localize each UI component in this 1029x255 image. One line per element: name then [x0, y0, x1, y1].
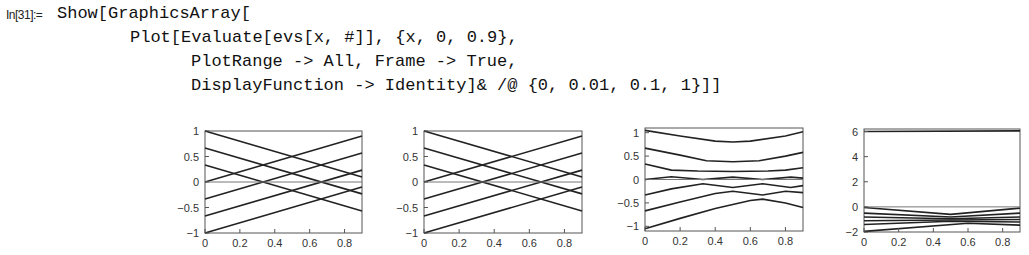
y-tick-label: 1 — [633, 127, 639, 139]
eigenvalue-curve — [205, 153, 362, 199]
plot-1: 00.20.40.60.810.50−0.5−1 — [205, 131, 362, 233]
code-line-4[interactable]: DisplayFunction -> Identity]& /@ {0, 0.0… — [191, 76, 722, 95]
x-tick-label: 0.4 — [487, 237, 502, 249]
y-tick-label: −1 — [405, 227, 418, 239]
x-tick-label: 0.8 — [557, 237, 572, 249]
eigenvalue-curve — [424, 165, 582, 211]
input-cell-label: In[31]:= — [6, 8, 42, 22]
y-tick-label: 2 — [852, 176, 858, 188]
y-tick-label: 4 — [852, 151, 858, 163]
x-tick-label: 0.6 — [302, 237, 317, 249]
y-tick-label: 0 — [852, 201, 858, 213]
eigenvalue-curve — [424, 153, 582, 199]
y-tick-label: −1 — [626, 220, 639, 232]
eigenvalue-curve — [864, 131, 1020, 132]
eigenvalue-curve — [864, 219, 1020, 220]
eigenvalue-curve — [864, 223, 1020, 231]
y-tick-label: −0.5 — [177, 202, 199, 214]
y-tick-label: −0.5 — [617, 197, 639, 209]
plot-2: 00.20.40.60.810.50−0.5−1 — [424, 131, 582, 233]
eigenvalue-curve — [205, 165, 362, 211]
x-tick-label: 0.4 — [267, 237, 282, 249]
y-tick-label: 0.5 — [403, 151, 418, 163]
x-tick-label: 0.8 — [995, 236, 1010, 248]
eigenvalue-curve — [205, 131, 362, 177]
y-tick-label: 0 — [412, 176, 418, 188]
y-tick-label: 1 — [193, 125, 199, 137]
y-tick-label: −1 — [186, 227, 199, 239]
code-line-1[interactable]: Show[GraphicsArray[ — [57, 4, 251, 23]
x-tick-label: 0 — [861, 236, 867, 248]
x-tick-label: 0.6 — [743, 235, 758, 247]
plot-4: 00.20.40.60.86420−2 — [864, 129, 1020, 232]
x-tick-label: 0.6 — [960, 236, 975, 248]
x-tick-label: 0 — [642, 235, 648, 247]
x-tick-label: 0 — [202, 237, 208, 249]
x-tick-label: 0 — [421, 237, 427, 249]
eigenvalue-curve — [205, 136, 362, 182]
x-tick-label: 0.2 — [891, 236, 906, 248]
x-tick-label: 0.6 — [522, 237, 537, 249]
eigenvalue-curve — [645, 191, 803, 211]
eigenvalue-curve — [205, 148, 362, 194]
y-tick-label: 0.5 — [184, 151, 199, 163]
x-tick-label: 0.4 — [708, 235, 723, 247]
x-tick-label: 0.2 — [672, 235, 687, 247]
eigenvalue-curve — [645, 184, 803, 195]
y-tick-label: 0.5 — [624, 150, 639, 162]
eigenvalue-curve — [424, 170, 582, 216]
eigenvalue-curve — [205, 187, 362, 233]
y-tick-label: 0 — [633, 174, 639, 186]
eigenvalue-curve — [645, 130, 803, 142]
y-tick-label: −2 — [845, 226, 858, 238]
x-tick-label: 0.8 — [337, 237, 352, 249]
eigenvalue-curve — [645, 148, 803, 162]
x-tick-label: 0.4 — [926, 236, 941, 248]
code-line-3[interactable]: PlotRange -> All, Frame -> True, — [191, 52, 517, 71]
x-tick-label: 0.2 — [232, 237, 247, 249]
y-tick-label: 0 — [193, 176, 199, 188]
y-tick-label: 1 — [412, 125, 418, 137]
eigenvalue-curve — [424, 136, 582, 182]
x-tick-label: 0.8 — [778, 235, 793, 247]
eigenvalue-curve — [424, 148, 582, 194]
eigenvalue-curve — [424, 131, 582, 177]
code-line-2[interactable]: Plot[Evaluate[evs[x, #]], {x, 0, 0.9}, — [130, 28, 518, 47]
x-tick-label: 0.2 — [451, 237, 466, 249]
eigenvalue-curve — [424, 187, 582, 233]
eigenvalue-curve — [645, 164, 803, 171]
y-tick-label: 6 — [852, 126, 858, 138]
plot-3: 00.20.40.60.810.50−0.5−1 — [645, 128, 803, 231]
eigenvalue-curve — [645, 199, 803, 228]
y-tick-label: −0.5 — [396, 202, 418, 214]
eigenvalue-curve — [205, 170, 362, 216]
